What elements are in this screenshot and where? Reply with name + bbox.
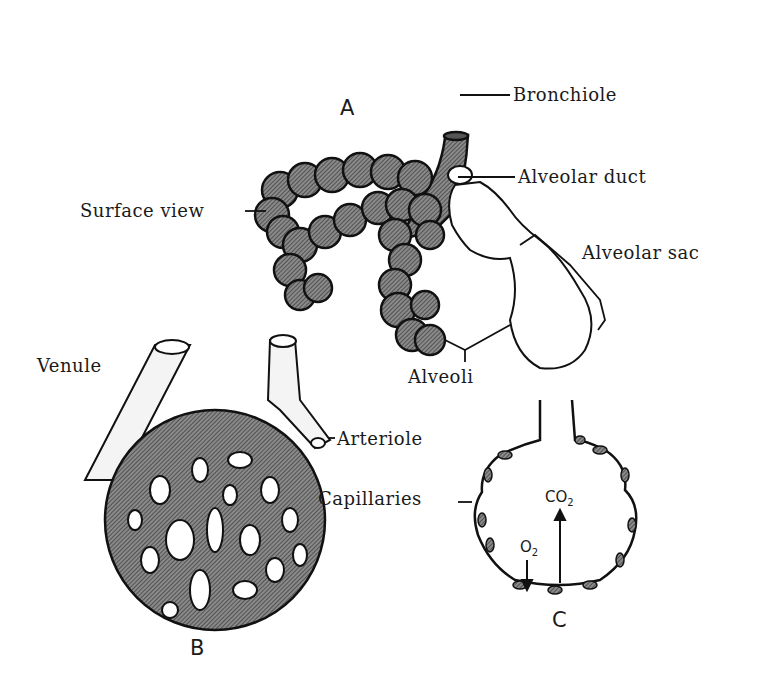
label-venule: Venule (37, 357, 102, 375)
surface-view-alveoli-clusters (255, 153, 445, 355)
label-capillaries: Capillaries (318, 490, 422, 508)
panel-letter-a: A (340, 98, 355, 119)
diagram-canvas (0, 0, 779, 673)
label-co2: CO2 (545, 490, 574, 508)
label-o2: O2 (520, 540, 538, 558)
label-alveoli: Alveoli (408, 368, 473, 386)
alveolar-sac-shape (448, 166, 591, 369)
panel-letter-c: C (552, 610, 567, 631)
capillary-network (105, 410, 325, 630)
label-alveolar-duct: Alveolar duct (518, 168, 646, 186)
label-arteriole: Arteriole (337, 430, 423, 448)
label-bronchiole: Bronchiole (513, 86, 617, 104)
panel-letter-b: B (190, 638, 205, 659)
label-alveolar-sac: Alveolar sac (582, 244, 699, 262)
label-surface-view: Surface view (80, 202, 204, 220)
